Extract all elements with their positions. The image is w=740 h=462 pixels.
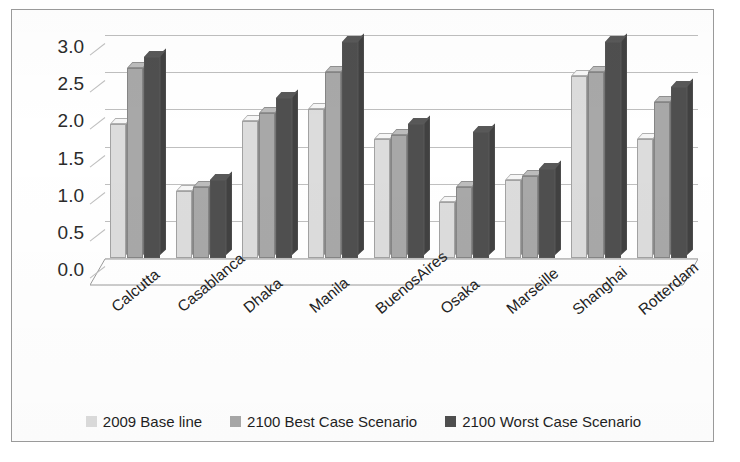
legend-label-0: 2009 Base line [103, 413, 202, 430]
legend-swatch-icon-0 [86, 416, 97, 427]
bar-face [605, 42, 621, 258]
bar-face [127, 68, 143, 258]
legend-item-2[interactable]: 2100 Worst Case Scenario [445, 413, 641, 430]
legend-swatch-icon-1 [230, 416, 241, 427]
bar-marseille-series-0 [505, 180, 521, 258]
bar-face [176, 191, 192, 258]
legend-item-1[interactable]: 2100 Best Case Scenario [230, 413, 417, 430]
bar-manila-series-1 [325, 72, 341, 258]
bar-side-face [489, 123, 495, 255]
bar-series-layer [12, 10, 715, 310]
bar-manila-series-0 [308, 109, 324, 258]
bar-shanghai-series-2 [605, 42, 621, 258]
bar-casablanca-series-2 [210, 180, 226, 258]
bar-dhaka-series-2 [276, 98, 292, 258]
bar-side-face [292, 90, 298, 255]
bar-face [456, 187, 472, 258]
bar-calcutta-series-2 [144, 57, 160, 258]
bar-face [473, 132, 489, 258]
legend-label-1: 2100 Best Case Scenario [247, 413, 417, 430]
bar-dhaka-series-1 [259, 113, 275, 258]
bar-face [671, 87, 687, 258]
bar-face [325, 72, 341, 258]
bar-osaka-series-1 [456, 187, 472, 258]
bar-casablanca-series-1 [193, 187, 209, 258]
bar-side-face [226, 172, 232, 255]
bar-shanghai-series-0 [571, 76, 587, 258]
bar-side-face [621, 34, 627, 255]
bar-marseille-series-1 [522, 176, 538, 258]
bar-rotterdam-series-0 [637, 139, 653, 258]
x-axis-category-labels: CalcuttaCasablancaDhakaManilaBuenosAires… [12, 288, 715, 378]
bar-face [259, 113, 275, 258]
legend-swatch-icon-2 [445, 416, 456, 427]
bar-face [242, 121, 258, 259]
legend-item-0[interactable]: 2009 Base line [86, 413, 202, 430]
bar-face [144, 57, 160, 258]
bar-buenosaires-series-0 [374, 139, 390, 258]
bar-side-face [358, 34, 364, 255]
bar-rotterdam-series-1 [654, 102, 670, 258]
bar-face [522, 176, 538, 258]
bar-face [654, 102, 670, 258]
chart-figure-frame: 3.0 2.5 2.0 1.5 1.0 0.5 0.0 CalcuttaCasa… [11, 9, 714, 442]
bar-casablanca-series-0 [176, 191, 192, 258]
bar-dhaka-series-0 [242, 121, 258, 259]
bar-marseille-series-2 [539, 169, 555, 258]
bar-face [505, 180, 521, 258]
chart-legend: 2009 Base line2100 Best Case Scenario210… [12, 406, 715, 436]
bar-side-face [424, 116, 430, 255]
bar-calcutta-series-1 [127, 68, 143, 258]
bar-face [193, 187, 209, 258]
bar-face [539, 169, 555, 258]
bar-shanghai-series-1 [588, 72, 604, 258]
plot-area: 3.0 2.5 2.0 1.5 1.0 0.5 0.0 [12, 10, 715, 310]
bar-rotterdam-series-2 [671, 87, 687, 258]
bar-face [571, 76, 587, 258]
bar-face [276, 98, 292, 258]
bar-side-face [555, 160, 561, 255]
legend-label-2: 2100 Worst Case Scenario [462, 413, 641, 430]
bar-manila-series-2 [342, 42, 358, 258]
bar-buenosaires-series-1 [391, 135, 407, 258]
bar-face [110, 124, 126, 258]
bar-face [210, 180, 226, 258]
bar-side-face [687, 79, 693, 255]
bar-buenosaires-series-2 [408, 124, 424, 258]
bar-face [342, 42, 358, 258]
bar-calcutta-series-0 [110, 124, 126, 258]
bar-face [408, 124, 424, 258]
bar-face [374, 139, 390, 258]
bar-face [391, 135, 407, 258]
bar-side-face [160, 49, 166, 255]
bar-face [588, 72, 604, 258]
bar-face [637, 139, 653, 258]
bar-osaka-series-2 [473, 132, 489, 258]
bar-face [308, 109, 324, 258]
